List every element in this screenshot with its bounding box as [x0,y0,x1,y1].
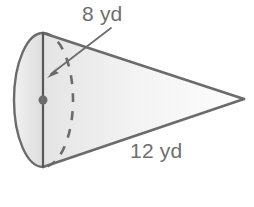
cone-diagram-figure: 8 yd 12 yd [0,0,254,207]
radius-dimension-label: 8 yd [82,3,123,24]
cone-drawing [0,0,254,207]
cone-base-center-dot [39,96,48,105]
slant-height-dimension-label: 12 yd [130,140,182,161]
